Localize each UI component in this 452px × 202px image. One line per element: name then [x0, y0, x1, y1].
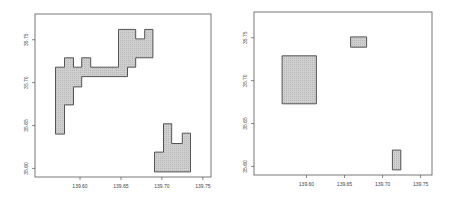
- plot-frame: [254, 12, 432, 175]
- y-tick-label: 35.65: [242, 117, 248, 130]
- y-tick-label: 35.60: [242, 160, 248, 173]
- x-tick-label: 139.60: [299, 181, 315, 187]
- x-tick-label: 139.75: [413, 181, 429, 187]
- map-panel-right: 139.60139.65139.70139.7535.6035.6535.703…: [242, 12, 432, 187]
- y-tick-label: 35.75: [23, 33, 29, 46]
- y-tick-label: 35.75: [242, 31, 248, 44]
- map-panel-left: 139.60139.65139.70139.7535.6035.6535.703…: [23, 14, 211, 189]
- x-tick-label: 139.75: [195, 183, 211, 189]
- region-southeast-rectangle: [392, 150, 400, 170]
- y-tick-label: 35.65: [23, 119, 29, 132]
- x-tick-label: 139.70: [375, 181, 391, 187]
- y-tick-label: 35.70: [23, 76, 29, 89]
- x-tick-label: 139.60: [72, 183, 88, 189]
- x-tick-label: 139.65: [113, 183, 129, 189]
- region-northwest-region: [56, 29, 153, 134]
- x-tick-label: 139.65: [337, 181, 353, 187]
- map-figure: 139.60139.65139.70139.7535.6035.6535.703…: [0, 0, 452, 202]
- region-west-rectangle: [282, 56, 316, 104]
- y-tick-label: 35.70: [242, 74, 248, 87]
- y-tick-label: 35.60: [23, 162, 29, 175]
- x-tick-label: 139.70: [154, 183, 170, 189]
- region-north-rectangle: [351, 37, 367, 47]
- region-southeast-region: [155, 124, 191, 172]
